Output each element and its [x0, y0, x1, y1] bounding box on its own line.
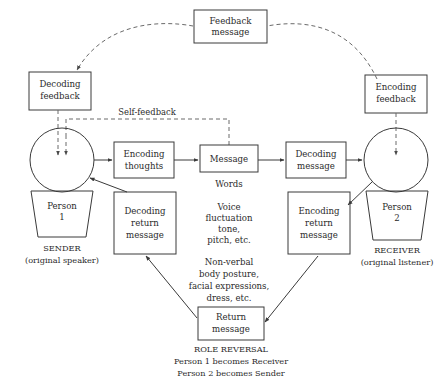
person-2-trapezoid: Person 2: [366, 191, 428, 240]
return-message-label-line1: Return: [216, 312, 247, 322]
sender-caption-line1: SENDER: [43, 243, 81, 253]
decoding-return-message-label-line1: Decoding: [124, 206, 166, 216]
decoding-feedback-box[interactable]: Decoding feedback: [29, 72, 91, 110]
decoding-message-box[interactable]: Decoding message: [286, 142, 346, 178]
encoding-feedback-label-line1: Encoding: [375, 82, 417, 92]
encoding-feedback-label-line2: feedback: [376, 94, 416, 104]
nonverbal-note-line4: dress, etc.: [206, 293, 251, 303]
return-message-box[interactable]: Return message: [198, 307, 264, 340]
voice-note-line2: fluctuation: [205, 213, 253, 223]
channel-note-words: Words: [215, 179, 242, 189]
channel-note-voice: Voice fluctuation tone, pitch, etc.: [205, 202, 253, 245]
decoding-feedback-label-line1: Decoding: [39, 79, 81, 89]
sender-caption-line2: (original speaker): [25, 255, 99, 265]
decoding-return-message-label-line2: return: [131, 218, 159, 228]
person-1-label-line1: Person: [47, 201, 77, 211]
person-2-label-line2: 2: [394, 213, 399, 223]
encoding-thoughts-label-line1: Encoding: [123, 149, 165, 159]
receiver-caption: RECEIVER (original listener): [361, 245, 434, 267]
receiver-caption-line2: (original listener): [361, 257, 434, 267]
message-label: Message: [210, 154, 248, 164]
self-feedback-line: [66, 119, 229, 145]
decoding-return-message-label-line3: message: [126, 230, 164, 240]
message-box[interactable]: Message: [200, 145, 258, 172]
encoding-return-message-label-line2: return: [305, 218, 333, 228]
role-reversal-line1: ROLE REVERSAL: [194, 344, 269, 354]
feedback-message-box[interactable]: Feedback message: [194, 10, 267, 43]
encoding-thoughts-box[interactable]: Encoding thoughts: [114, 142, 174, 178]
encoding-feedback-box[interactable]: Encoding feedback: [365, 75, 427, 113]
nonverbal-note-line2: body posture,: [199, 269, 259, 279]
sender-caption: SENDER (original speaker): [25, 243, 99, 265]
voice-note-line1: Voice: [216, 202, 240, 212]
return-message-label-line2: message: [212, 324, 250, 334]
diagram-canvas: Feedback message Decoding feedback Encod…: [0, 0, 448, 387]
communication-process-diagram: Feedback message Decoding feedback Encod…: [0, 0, 448, 387]
feedback-arc-left-segment: [77, 24, 193, 70]
receiver-to-encoding-return-arrow: [348, 182, 372, 205]
role-reversal-caption: ROLE REVERSAL Person 1 becomes Receiver …: [174, 344, 288, 378]
encoding-return-to-return-message-arrow: [265, 256, 318, 322]
words-note-line1: Words: [215, 179, 242, 189]
receiver-caption-line1: RECEIVER: [374, 245, 421, 255]
feedback-arc-right-segment: [267, 24, 377, 79]
sender-circle-icon: [30, 128, 94, 192]
self-feedback-label: Self-feedback: [118, 107, 176, 117]
person-1-label-line2: 1: [59, 212, 64, 222]
feedback-message-label-line2: message: [212, 27, 250, 37]
decoding-message-label-line1: Decoding: [295, 149, 337, 159]
person-1-trapezoid: Person 1: [31, 191, 93, 237]
channel-note-nonverbal: Non-verbal body posture, facial expressi…: [189, 257, 270, 303]
decoding-return-message-box[interactable]: Decoding return message: [114, 192, 176, 254]
role-reversal-line2: Person 1 becomes Receiver: [174, 356, 288, 366]
encoding-return-message-label-line1: Encoding: [298, 206, 340, 216]
person-2-label-line1: Person: [382, 202, 412, 212]
encoding-return-message-box[interactable]: Encoding return message: [288, 192, 350, 254]
decoding-message-label-line2: message: [297, 161, 335, 171]
voice-note-line4: pitch, etc.: [207, 235, 251, 245]
nonverbal-note-line1: Non-verbal: [205, 257, 254, 267]
decoding-return-to-sender-arrow: [90, 178, 127, 192]
voice-note-line3: tone,: [218, 224, 240, 234]
encoding-return-message-label-line3: message: [300, 230, 338, 240]
encoding-thoughts-label-line2: thoughts: [125, 161, 164, 171]
nonverbal-note-line3: facial expressions,: [189, 281, 270, 291]
role-reversal-line3: Person 2 becomes Sender: [177, 368, 285, 378]
decoding-feedback-label-line2: feedback: [40, 91, 80, 101]
feedback-message-label-line1: Feedback: [210, 16, 253, 26]
